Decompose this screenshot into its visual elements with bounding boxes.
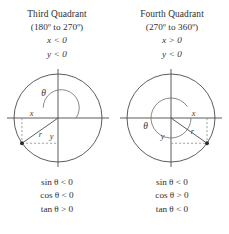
y-label: y: [160, 132, 165, 141]
terminal-point: [20, 141, 24, 145]
unit-circle-diagram-third: θ x r y: [0, 66, 114, 172]
quadrant-angle-range: (180º to 270º): [0, 21, 114, 34]
footer-third-quadrant: sin θ < 0 cos θ < 0 tan θ > 0: [0, 176, 114, 216]
tan-sign: tan θ > 0: [0, 203, 114, 216]
terminal-point: [205, 141, 209, 145]
y-sign-condition: y < 0: [115, 48, 229, 61]
panel-third-quadrant: Third Quadrant (180º to 270º) x < 0 y < …: [0, 0, 114, 234]
x-sign-condition: x < 0: [0, 34, 114, 47]
x-label: x: [29, 109, 34, 118]
cos-sign: cos θ > 0: [115, 189, 229, 202]
theta-label: θ: [41, 87, 46, 98]
quadrant-angle-range: (270º to 360º): [115, 21, 229, 34]
footer-fourth-quadrant: sin θ < 0 cos θ > 0 tan θ < 0: [115, 176, 229, 216]
theta-label: θ: [143, 120, 148, 131]
y-sign-condition: y < 0: [0, 48, 114, 61]
unit-circle-diagram-fourth: θ x r y: [115, 66, 229, 172]
sin-sign: sin θ < 0: [0, 176, 114, 189]
quadrant-reference-figure: Third Quadrant (180º to 270º) x < 0 y < …: [0, 0, 229, 234]
quadrant-title: Fourth Quadrant: [115, 8, 229, 21]
header-fourth-quadrant: Fourth Quadrant (270º to 360º) x > 0 y <…: [115, 8, 229, 61]
quadrant-title: Third Quadrant: [0, 8, 114, 21]
theta-arc: [43, 90, 79, 118]
r-label: r: [39, 130, 43, 139]
panel-fourth-quadrant: Fourth Quadrant (270º to 360º) x > 0 y <…: [115, 0, 229, 234]
terminal-ray: [171, 118, 207, 143]
tan-sign: tan θ < 0: [115, 203, 229, 216]
x-label: x: [191, 109, 196, 118]
header-third-quadrant: Third Quadrant (180º to 270º) x < 0 y < …: [0, 8, 114, 61]
x-sign-condition: x > 0: [115, 34, 229, 47]
y-label: y: [49, 132, 54, 141]
sin-sign: sin θ < 0: [115, 176, 229, 189]
cos-sign: cos θ < 0: [0, 189, 114, 202]
